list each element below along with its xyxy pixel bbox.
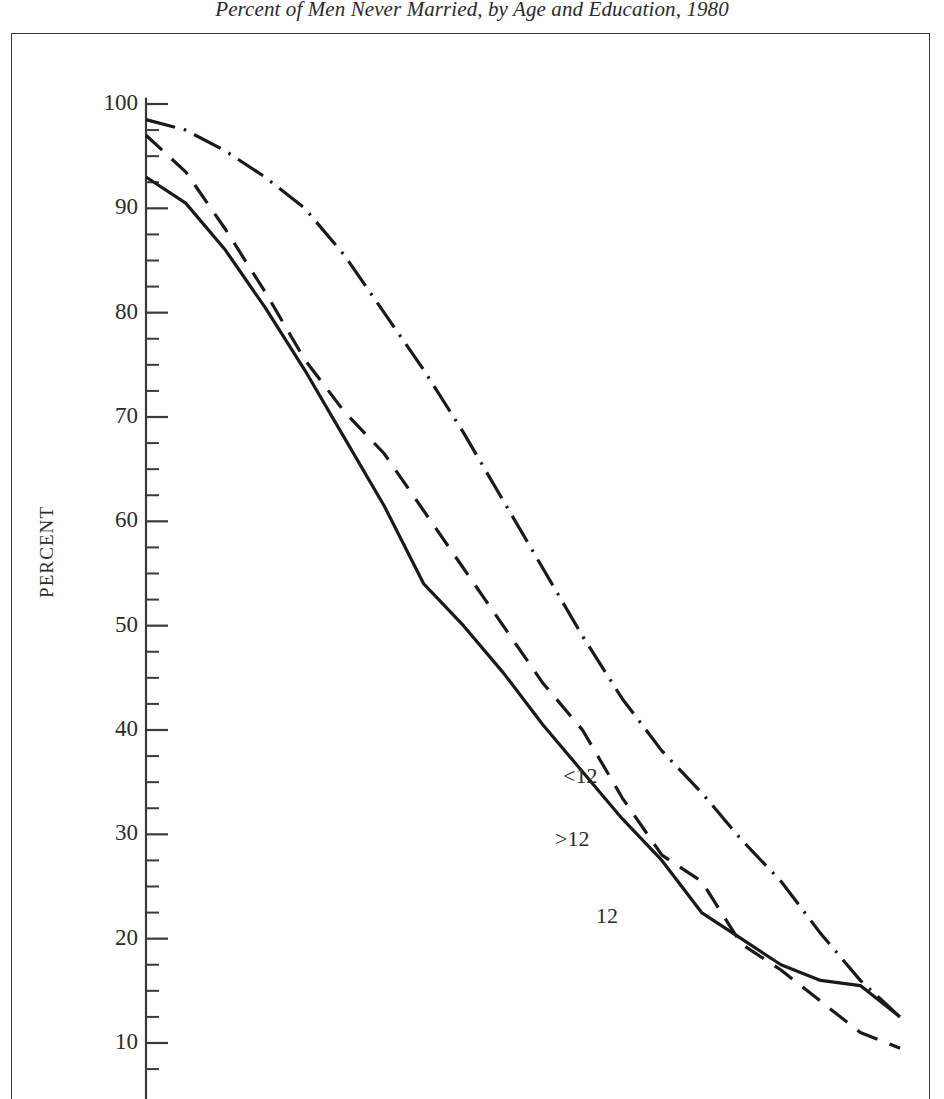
y-tick-label-50: 50 bbox=[76, 613, 138, 636]
series-label-less-than-12: <12 bbox=[563, 765, 597, 787]
y-tick-label-80: 80 bbox=[76, 300, 138, 323]
y-tick-label-40: 40 bbox=[76, 717, 138, 740]
y-tick-label-60: 60 bbox=[76, 508, 138, 531]
y-tick-label-20: 20 bbox=[76, 926, 138, 949]
y-tick-label-30: 30 bbox=[76, 821, 138, 844]
chart-series-group bbox=[146, 120, 900, 1049]
series-line-12 bbox=[146, 135, 900, 1048]
chart-svg bbox=[0, 0, 944, 1099]
y-axis-title: PERCENT bbox=[36, 418, 58, 598]
chart-plot-area bbox=[0, 0, 944, 1099]
y-tick-label-100: 100 bbox=[76, 91, 138, 114]
y-tick-label-10: 10 bbox=[76, 1030, 138, 1053]
y-tick-label-90: 90 bbox=[76, 195, 138, 218]
y-axis bbox=[146, 98, 168, 1099]
series-label-greater-than-12: >12 bbox=[555, 828, 589, 850]
series-line-lt12 bbox=[146, 120, 900, 1017]
y-tick-label-70: 70 bbox=[76, 404, 138, 427]
series-label-equal-12: 12 bbox=[596, 905, 618, 927]
